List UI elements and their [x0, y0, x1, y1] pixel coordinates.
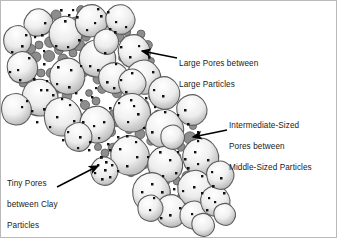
label-large-pores-line1: Large Pores between: [179, 59, 258, 69]
label-large-pores-line2: Large Particles: [179, 80, 258, 90]
label-tiny-pores-line2: between Clay: [7, 200, 58, 210]
label-intermediate-pores-line3: Middle-Sized Particles: [229, 163, 312, 173]
label-tiny-pores-line1: Tiny Pores: [7, 179, 58, 189]
label-intermediate-pores-line2: Pores between: [229, 142, 312, 152]
label-tiny-pores: Tiny Pores between Clay Particles: [7, 169, 58, 238]
label-tiny-pores-line3: Particles: [7, 221, 58, 231]
diagram-page: Large Pores between Large Particles Inte…: [0, 0, 337, 238]
label-intermediate-pores-line1: Intermediate-Sized: [229, 121, 312, 131]
label-large-pores: Large Pores between Large Particles: [179, 49, 258, 101]
label-intermediate-pores: Intermediate-Sized Pores between Middle-…: [229, 111, 312, 184]
